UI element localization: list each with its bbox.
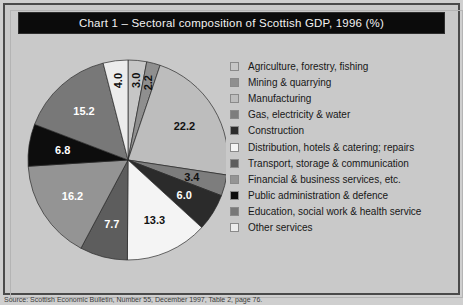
legend-item-label: Transport, storage & communication — [248, 158, 409, 169]
legend-item-label: Mining & quarrying — [248, 77, 331, 88]
legend-item-label: Financial & business services, etc. — [248, 174, 401, 185]
legend-swatch-icon — [230, 191, 239, 200]
legend-item[interactable]: Education, social work & health service — [230, 204, 455, 220]
legend-item[interactable]: Transport, storage & communication — [230, 155, 455, 171]
legend-swatch-icon — [230, 143, 239, 152]
pie-slice-value-label: 13.3 — [144, 214, 165, 226]
legend-item-label: Public administration & defence — [248, 190, 388, 201]
chart-figure: Chart 1 – Sectoral composition of Scotti… — [0, 0, 463, 305]
legend-swatch-icon — [230, 175, 239, 184]
legend-swatch-icon — [230, 223, 239, 232]
legend-item-label: Other services — [248, 222, 312, 233]
pie-slice-group — [28, 60, 226, 260]
chart-title-bar: Chart 1 – Sectoral composition of Scotti… — [18, 12, 445, 34]
chart-title: Chart 1 – Sectoral composition of Scotti… — [79, 17, 384, 29]
source-note-text: Source: Scottish Economic Bulletin, Numb… — [4, 297, 262, 303]
legend-item[interactable]: Manufacturing — [230, 90, 455, 106]
legend-swatch-icon — [230, 207, 239, 216]
pie-chart: 3.02.222.23.46.013.37.716.26.815.24.0 — [16, 46, 226, 282]
pie-slice-value-label: 3.4 — [184, 171, 200, 183]
pie-slice-value-label: 4.0 — [112, 73, 124, 88]
legend-item-label: Manufacturing — [248, 93, 311, 104]
pie-slice-value-label: 22.2 — [174, 120, 195, 132]
legend-item-label: Construction — [248, 125, 304, 136]
legend-swatch-icon — [230, 110, 239, 119]
pie-slice-value-label: 6.8 — [55, 144, 70, 156]
legend-item[interactable]: Gas, electricity & water — [230, 107, 455, 123]
legend-item[interactable]: Construction — [230, 123, 455, 139]
legend-item[interactable]: Financial & business services, etc. — [230, 171, 455, 187]
legend-swatch-icon — [230, 126, 239, 135]
legend-swatch-icon — [230, 94, 239, 103]
legend-item-label: Agriculture, forestry, fishing — [248, 61, 368, 72]
legend-item[interactable]: Mining & quarrying — [230, 74, 455, 90]
legend-swatch-icon — [230, 62, 239, 71]
chart-legend: Agriculture, forestry, fishingMining & q… — [230, 58, 455, 236]
legend-swatch-icon — [230, 78, 239, 87]
pie-slice-value-label: 15.2 — [73, 105, 94, 117]
pie-slice-value-label: 16.2 — [62, 190, 83, 202]
legend-item-label: Gas, electricity & water — [248, 109, 350, 120]
source-note: Source: Scottish Economic Bulletin, Numb… — [4, 297, 459, 305]
legend-item[interactable]: Other services — [230, 220, 455, 236]
pie-slice-value-label: 6.0 — [177, 189, 192, 201]
pie-slice-value-label: 3.0 — [130, 73, 142, 88]
pie-slice-value-label: 2.2 — [142, 75, 154, 90]
legend-swatch-icon — [230, 159, 239, 168]
pie-slice-value-label: 7.7 — [104, 218, 119, 230]
legend-item-label: Distribution, hotels & catering; repairs — [248, 142, 414, 153]
legend-item[interactable]: Public administration & defence — [230, 188, 455, 204]
legend-item[interactable]: Agriculture, forestry, fishing — [230, 58, 455, 74]
legend-item[interactable]: Distribution, hotels & catering; repairs — [230, 139, 455, 155]
pie-chart-svg: 3.02.222.23.46.013.37.716.26.815.24.0 — [16, 46, 226, 282]
legend-item-label: Education, social work & health service — [248, 206, 421, 217]
